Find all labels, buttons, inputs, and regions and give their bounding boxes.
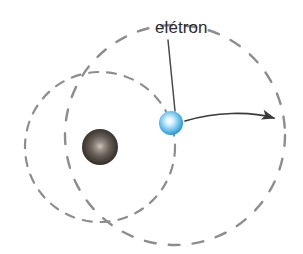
atom-diagram-canvas: elétron	[0, 0, 303, 254]
electron-label: elétron	[155, 18, 208, 37]
atom-diagram-svg: elétron	[0, 0, 303, 254]
electron	[159, 111, 183, 135]
nucleus	[82, 129, 118, 165]
electron-transition-arrow	[185, 113, 274, 121]
electron-leader-line	[168, 40, 175, 111]
